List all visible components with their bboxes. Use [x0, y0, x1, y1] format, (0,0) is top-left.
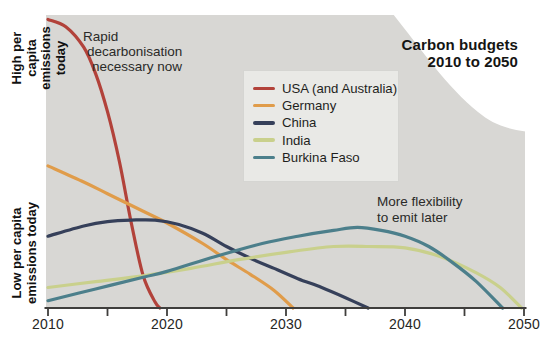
legend-item-india: India — [253, 132, 398, 149]
x-tick-label-2020: 2020 — [151, 316, 183, 332]
legend-item-germany: Germany — [253, 97, 398, 114]
x-tick-label-2040: 2040 — [389, 316, 421, 332]
legend-item-china: China — [253, 114, 398, 131]
chart-title-line1: Carbon budgets — [402, 36, 518, 53]
legend-box: USA (and Australia) Germany China India … — [243, 70, 399, 182]
legend-label-usa: USA (and Australia) — [275, 81, 397, 96]
carbon-budgets-chart: High per capita emissions today Low per … — [0, 0, 549, 344]
legend-swatch-germany — [253, 104, 275, 107]
y-axis-label-high-line2: emissions today — [39, 12, 68, 104]
x-tick-label-2050: 2050 — [508, 316, 540, 332]
legend-swatch-burkina-faso — [253, 156, 275, 159]
annotation-rapid-line2: decarbonisation — [83, 44, 182, 59]
legend-label-burkina-faso: Burkina Faso — [275, 150, 360, 165]
annotation-more-flexibility: More flexibility to emit later — [377, 194, 463, 226]
legend-label-germany: Germany — [275, 98, 336, 113]
y-axis-label-low-line1: Low per capita — [10, 200, 25, 306]
chart-title: Carbon budgets 2010 to 2050 — [402, 36, 518, 70]
annotation-rapid-line1: Rapid — [83, 29, 182, 44]
y-axis-label-high-line1: High per capita — [10, 12, 39, 104]
annotation-flex-line2: to emit later — [377, 210, 463, 226]
y-axis-label-low-line2: emissions today — [25, 200, 40, 306]
legend-label-india: India — [275, 133, 311, 148]
legend-swatch-india — [253, 138, 275, 141]
annotation-flex-line1: More flexibility — [377, 194, 463, 210]
legend-item-usa: USA (and Australia) — [253, 80, 398, 97]
legend-swatch-usa — [253, 87, 275, 90]
annotation-rapid-line3: necessary now — [83, 59, 182, 74]
x-tick-label-2010: 2010 — [32, 316, 64, 332]
legend-label-china: China — [275, 115, 316, 130]
annotation-rapid-decarbonisation: Rapid decarbonisation necessary now — [83, 29, 182, 74]
legend-swatch-china — [253, 121, 275, 124]
x-tick-label-2030: 2030 — [270, 316, 302, 332]
legend-item-burkina-faso: Burkina Faso — [253, 149, 398, 166]
y-axis-label-high: High per capita emissions today — [10, 12, 68, 104]
chart-title-line2: 2010 to 2050 — [402, 53, 518, 70]
y-axis-label-low: Low per capita emissions today — [10, 200, 39, 306]
